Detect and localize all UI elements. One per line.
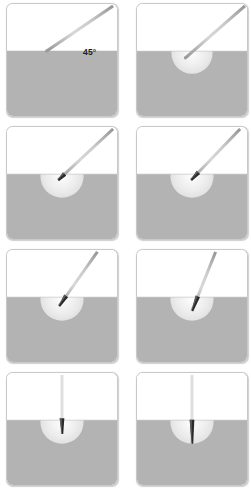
panel-drawing <box>137 127 247 239</box>
panel-grid: 45° <box>0 0 251 494</box>
illustration-panel <box>136 372 248 486</box>
needle-tip <box>45 50 48 53</box>
illustration-panel <box>6 372 118 486</box>
panel-drawing <box>7 250 117 362</box>
needle-tip <box>184 57 187 60</box>
air-overlay <box>137 127 247 174</box>
illustration-panel <box>136 126 248 240</box>
illustration-panel <box>6 249 118 363</box>
air-overlay <box>137 250 247 297</box>
needle-insertion-figure: 45° <box>0 0 251 494</box>
illustration-panel: 45° <box>6 3 118 117</box>
illustration-panel <box>136 3 248 117</box>
air-overlay <box>137 4 247 51</box>
illustration-panel <box>6 126 118 240</box>
panel-drawing <box>7 127 117 239</box>
panel-drawing <box>137 250 247 362</box>
air-overlay <box>7 250 117 297</box>
panel-drawing <box>137 4 247 116</box>
air-region <box>7 4 117 51</box>
panel-drawing <box>137 373 247 485</box>
panel-drawing <box>7 4 117 116</box>
air-overlay <box>7 127 117 174</box>
panel-drawing <box>7 373 117 485</box>
angle-label: 45° <box>83 47 96 57</box>
illustration-panel <box>136 249 248 363</box>
tissue-region <box>7 51 117 116</box>
